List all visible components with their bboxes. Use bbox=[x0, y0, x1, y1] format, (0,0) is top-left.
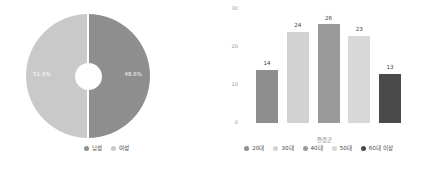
legend-item-50s[interactable]: 50대 bbox=[332, 146, 352, 152]
bar-value-label: 24 bbox=[287, 23, 309, 29]
bar-column-50s[interactable]: 23 bbox=[348, 9, 370, 123]
donut-chart: 51.4% 48.6% bbox=[26, 14, 150, 138]
legend-item-60s-plus[interactable]: 60대 이상 bbox=[361, 146, 393, 152]
legend-label: 20대 bbox=[252, 146, 264, 152]
legend-item-40s[interactable]: 40대 bbox=[303, 146, 323, 152]
bar[interactable] bbox=[318, 24, 340, 123]
bar-plot-area: 30 20 10 0 14 24 26 23 bbox=[242, 9, 407, 123]
legend-label: 여성 bbox=[119, 146, 129, 152]
legend-item-30s[interactable]: 30대 bbox=[273, 146, 293, 152]
bar-column-30s[interactable]: 24 bbox=[287, 9, 309, 123]
pie-legend: 남성 여성 bbox=[0, 146, 212, 152]
bar-value-label: 14 bbox=[256, 61, 278, 67]
bar-group: 14 24 26 23 13 bbox=[256, 9, 401, 123]
bar[interactable] bbox=[379, 74, 401, 123]
bar[interactable] bbox=[287, 32, 309, 123]
legend-swatch-icon bbox=[111, 146, 116, 151]
donut-hole bbox=[75, 63, 102, 90]
bar[interactable] bbox=[256, 70, 278, 123]
gender-pie-panel: 51.4% 48.6% 남성 여성 bbox=[0, 0, 212, 172]
bar-value-label: 13 bbox=[379, 65, 401, 71]
legend-label: 50대 bbox=[340, 146, 352, 152]
bar-column-40s[interactable]: 26 bbox=[318, 9, 340, 123]
x-axis-label: 연령군 bbox=[242, 136, 407, 143]
y-axis-tick: 20 bbox=[231, 44, 238, 49]
bar[interactable] bbox=[348, 36, 370, 123]
age-bar-panel: 30 20 10 0 14 24 26 23 bbox=[212, 0, 425, 172]
bar-value-label: 23 bbox=[348, 27, 370, 33]
bar-column-60s-plus[interactable]: 13 bbox=[379, 9, 401, 123]
legend-item-male[interactable]: 남성 bbox=[84, 146, 102, 152]
pie-slice-label-female: 51.4% bbox=[33, 71, 51, 77]
legend-label: 남성 bbox=[92, 146, 102, 152]
bar-legend: 20대 30대 40대 50대 60대 이상 bbox=[212, 146, 425, 152]
legend-item-20s[interactable]: 20대 bbox=[244, 146, 264, 152]
legend-swatch-icon bbox=[361, 146, 366, 151]
legend-swatch-icon bbox=[332, 146, 337, 151]
legend-swatch-icon bbox=[303, 146, 308, 151]
legend-label: 60대 이상 bbox=[369, 146, 393, 152]
y-axis-tick: 0 bbox=[235, 120, 238, 125]
bar-column-20s[interactable]: 14 bbox=[256, 9, 278, 123]
y-axis-tick: 30 bbox=[231, 6, 238, 11]
bar-value-label: 26 bbox=[318, 16, 340, 22]
y-axis-tick: 10 bbox=[231, 82, 238, 87]
legend-swatch-icon bbox=[244, 146, 249, 151]
legend-label: 30대 bbox=[281, 146, 293, 152]
legend-swatch-icon bbox=[84, 146, 89, 151]
chart-figure: 51.4% 48.6% 남성 여성 30 20 10 0 14 bbox=[0, 0, 425, 172]
pie-slice-label-male: 48.6% bbox=[124, 71, 142, 77]
legend-item-female[interactable]: 여성 bbox=[111, 146, 129, 152]
legend-label: 40대 bbox=[311, 146, 323, 152]
legend-swatch-icon bbox=[273, 146, 278, 151]
